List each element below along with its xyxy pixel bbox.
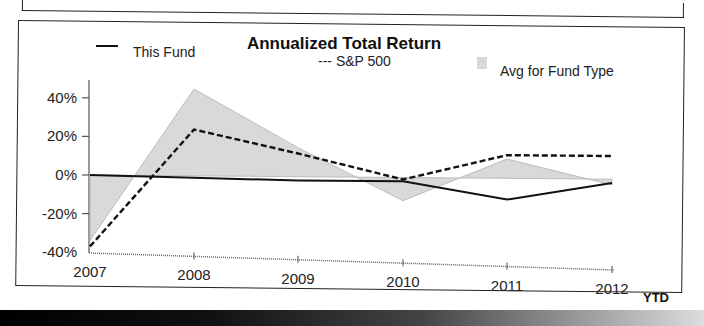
y-tick-label: 0%: [55, 166, 77, 183]
chart-title: Annualized Total Return: [247, 34, 441, 53]
legend-shaded-swatch-icon: [477, 57, 487, 69]
legend-this-fund: This Fund: [133, 44, 195, 60]
x-tick-label: 2009: [281, 270, 314, 287]
avg-fund-type-area: [90, 89, 612, 241]
y-tick-label: -40%: [42, 243, 77, 260]
y-axis: 40%20%0%-20%-40%: [42, 80, 89, 260]
ytd-label: YTD: [643, 290, 669, 305]
legend-avg-fund-type: Avg for Fund Type: [500, 63, 614, 79]
x-tick-label: 2012: [595, 280, 628, 297]
x-tick-label: 2007: [73, 263, 106, 280]
legend-sp500: --- S&P 500: [318, 53, 391, 69]
y-tick-label: 20%: [47, 127, 77, 144]
y-tick-label: -20%: [42, 205, 77, 222]
scan-edge-shadow: [0, 310, 704, 326]
x-axis: 200720082009201020112012: [73, 252, 628, 297]
plot-area: [90, 89, 612, 246]
x-tick-label: 2008: [177, 266, 210, 283]
x-tick-label: 2010: [386, 273, 419, 290]
x-tick-label: 2011: [491, 277, 523, 294]
annualized-return-chart: Annualized Total Return This Fund --- S&…: [0, 0, 704, 326]
y-tick-label: 40%: [47, 89, 77, 106]
